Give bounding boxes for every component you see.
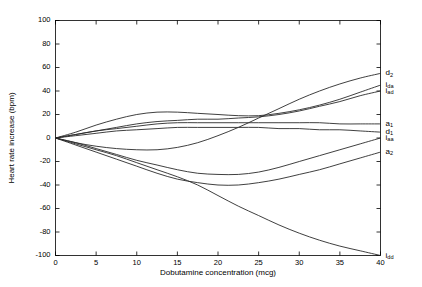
curve-d_2 bbox=[56, 73, 381, 150]
curve-d_1 bbox=[56, 127, 381, 138]
y-tick-label: 80 bbox=[42, 39, 50, 48]
curve-group bbox=[56, 73, 381, 255]
curve-a_2 bbox=[56, 138, 381, 185]
curve-label-d_2: d2 bbox=[386, 68, 394, 78]
dobutamine-response-line-chart: -100-80-60-40-20020406080100 05101520253… bbox=[0, 0, 422, 287]
y-tick-label: -20 bbox=[40, 156, 51, 165]
x-tick-label: 40 bbox=[376, 258, 384, 267]
y-tick-label: 100 bbox=[38, 15, 51, 24]
chart-figure: -100-80-60-40-20020406080100 05101520253… bbox=[0, 0, 422, 287]
y-tick-label: -60 bbox=[40, 203, 51, 212]
curve-i_dd bbox=[56, 138, 381, 256]
x-tick-label: 35 bbox=[336, 258, 344, 267]
y-tick-label: 20 bbox=[42, 109, 50, 118]
plot-frame bbox=[56, 21, 381, 256]
y-axis-ticks: -100-80-60-40-20020406080100 bbox=[35, 15, 380, 259]
y-tick-label: 0 bbox=[46, 133, 50, 142]
x-tick-label: 0 bbox=[53, 258, 57, 267]
x-tick-label: 20 bbox=[214, 258, 222, 267]
x-axis-label: Dobutamine concentration (mcg) bbox=[160, 268, 276, 277]
curve-label-a_2: a2 bbox=[386, 147, 394, 157]
curve-label-group: d2idaiada1d1iaaa2idd bbox=[386, 68, 395, 260]
x-tick-label: 30 bbox=[295, 258, 303, 267]
y-tick-label: -80 bbox=[40, 227, 51, 236]
y-tick-label: -40 bbox=[40, 180, 51, 189]
x-tick-label: 15 bbox=[173, 258, 181, 267]
y-tick-label: -100 bbox=[35, 250, 50, 259]
y-tick-label: 40 bbox=[42, 86, 50, 95]
y-tick-label: 60 bbox=[42, 62, 50, 71]
x-axis-ticks: 0510152025303540 bbox=[53, 21, 384, 268]
curve-label-i_dd: idd bbox=[386, 251, 394, 261]
x-tick-label: 5 bbox=[94, 258, 98, 267]
x-tick-label: 10 bbox=[133, 258, 141, 267]
x-tick-label: 25 bbox=[254, 258, 262, 267]
curve-i_aa bbox=[56, 138, 381, 175]
y-axis-label: Heart rate increase (bpm) bbox=[7, 92, 16, 183]
